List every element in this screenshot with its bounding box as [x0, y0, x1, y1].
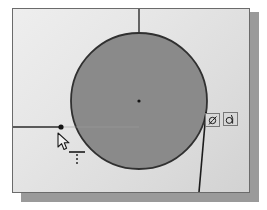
concentric-constraint-icon[interactable] [205, 113, 220, 127]
sketch-canvas[interactable] [13, 9, 249, 192]
center-point-marker[interactable] [137, 99, 140, 102]
screenshot-root: CAD Sketch Viewport 2D Sketch Plane Circ… [0, 0, 267, 210]
accessible-labels: CAD Sketch Viewport 2D Sketch Plane Circ… [0, 0, 1, 1]
page-title: CAD Sketch Viewport [0, 0, 1, 1]
tangent-glyph-shape [225, 114, 236, 125]
concentric-glyph-shape [207, 115, 218, 126]
cad-drawing-frame[interactable] [12, 8, 250, 193]
tangent-constraint-icon[interactable] [223, 112, 238, 126]
endpoint-marker[interactable] [58, 124, 63, 129]
